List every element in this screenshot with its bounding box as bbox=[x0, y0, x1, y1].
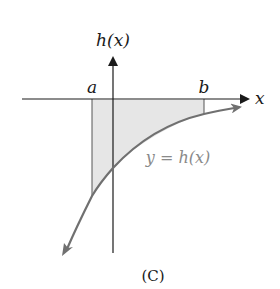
curve-label: y = h(x) bbox=[145, 148, 210, 167]
figure-caption: (C) bbox=[141, 267, 164, 285]
curve-arrow-down-icon bbox=[62, 243, 73, 256]
area-diagram: h(x) x a b y = h(x) (C) bbox=[0, 0, 280, 289]
y-axis-label: h(x) bbox=[96, 30, 130, 50]
x-axis-label: x bbox=[255, 88, 265, 108]
bound-b-label: b bbox=[199, 77, 210, 97]
bound-a-label: a bbox=[87, 77, 97, 97]
